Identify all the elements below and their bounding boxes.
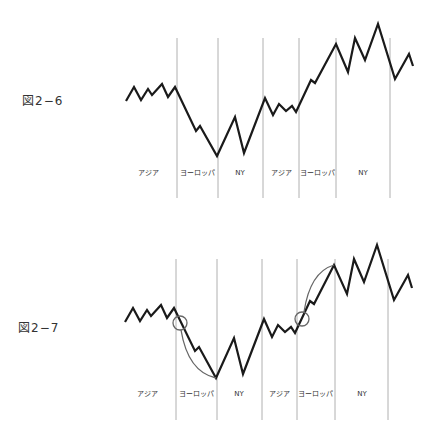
session-label: ヨーロッパ bbox=[298, 390, 333, 398]
session-label: アジア bbox=[137, 390, 158, 398]
session-label: NY bbox=[358, 169, 368, 177]
session-label: ヨーロッパ bbox=[180, 169, 215, 177]
session-charts: アジアヨーロッパNYアジアヨーロッパNYアジアヨーロッパNYアジアヨーロッパNY bbox=[0, 0, 440, 446]
session-label: NY bbox=[357, 390, 367, 398]
session-label: NY bbox=[234, 390, 244, 398]
price-line bbox=[126, 24, 413, 156]
trend-arc bbox=[181, 330, 216, 378]
price-line bbox=[125, 245, 412, 378]
session-label: NY bbox=[235, 169, 245, 177]
session-label: ヨーロッパ bbox=[179, 390, 214, 398]
session-label: ヨーロッパ bbox=[300, 169, 335, 177]
chart-2: アジアヨーロッパNYアジアヨーロッパNY bbox=[125, 245, 412, 420]
chart-1: アジアヨーロッパNYアジアヨーロッパNY bbox=[126, 24, 413, 198]
session-label: アジア bbox=[138, 169, 159, 177]
session-label: アジア bbox=[271, 169, 292, 177]
session-label: アジア bbox=[269, 390, 290, 398]
